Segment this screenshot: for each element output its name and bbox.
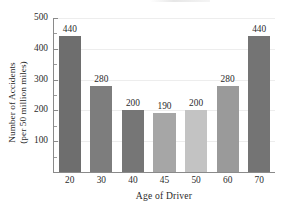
bar [185, 110, 207, 172]
y-axis-tick-label: 200 [22, 105, 48, 114]
bar-value-label: 440 [53, 25, 87, 34]
bar-value-label: 280 [211, 75, 245, 84]
clipped-title-remnant [150, 0, 210, 2]
bar [90, 86, 112, 172]
x-axis-tick-label: 70 [240, 176, 278, 185]
x-axis-line [53, 172, 275, 173]
bar-value-label: 190 [147, 102, 181, 111]
y-axis-tick-label: 100 [22, 136, 48, 145]
bar [153, 113, 175, 172]
y-axis-title-line1: Number of Accidents [7, 23, 18, 183]
bar-value-label: 440 [242, 25, 276, 34]
bar [217, 86, 239, 172]
bar-value-label: 200 [116, 99, 150, 108]
bar-value-label: 200 [179, 99, 213, 108]
bar [248, 36, 270, 172]
bar [59, 36, 81, 172]
x-axis-title: Age of Driver [53, 191, 275, 201]
plot-area [54, 18, 275, 172]
y-axis-tick-label: 300 [22, 75, 48, 84]
y-axis-tick-label: 500 [22, 13, 48, 22]
y-axis-tick-label: 400 [22, 44, 48, 53]
bar-value-label: 280 [84, 75, 118, 84]
bar-chart-figure: Number of Accidents (per 50 million mile… [0, 0, 281, 210]
bar [122, 110, 144, 172]
y-axis-tick-labels: 100200300400500 [22, 0, 48, 210]
